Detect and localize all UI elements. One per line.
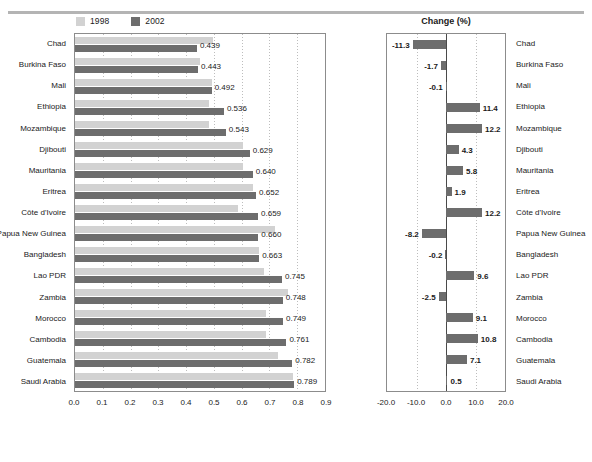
bar-1998 <box>75 205 238 213</box>
bar-2002 <box>75 381 294 389</box>
change-bar <box>446 334 478 344</box>
bar-value-label: 0.443 <box>201 61 221 70</box>
change-row: 12.2 <box>387 118 505 139</box>
bar-1998 <box>75 100 209 108</box>
change-bar <box>446 103 480 113</box>
category-label-left: Eritrea <box>0 181 70 202</box>
category-label-left: Bangladesh <box>0 244 70 265</box>
bar-value-label: 0.543 <box>229 124 249 133</box>
bar-value-label: 0.439 <box>200 40 220 49</box>
bar-2002 <box>75 297 283 305</box>
x-tick-label: 0.0 <box>440 398 451 407</box>
bar-value-label: 0.629 <box>253 145 273 154</box>
change-row: -1.7 <box>387 55 505 76</box>
bar-2002 <box>75 87 212 95</box>
x-tick-label: 0.5 <box>208 398 219 407</box>
change-bar <box>446 271 474 281</box>
change-value-label: 10.8 <box>481 334 497 343</box>
category-label-right: Eritrea <box>512 181 590 202</box>
change-x-axis: -20.0-10.00.010.020.0 <box>386 394 506 418</box>
levels-row: 0.660 <box>75 223 325 244</box>
levels-bar-rows: 0.4390.4430.4920.5360.5430.6290.6400.652… <box>75 34 325 391</box>
levels-panel: 0.4390.4430.4920.5360.5430.6290.6400.652… <box>74 33 326 418</box>
change-value-label: 5.8 <box>466 166 477 175</box>
chart-figure: 1998 2002 Change (%) ChadBurkina FasoMal… <box>0 0 592 462</box>
change-row: 10.8 <box>387 328 505 349</box>
category-label-left: Mauritania <box>0 160 70 181</box>
bar-1998 <box>75 331 266 339</box>
change-panel-title: Change (%) <box>386 16 506 26</box>
levels-x-axis: 0.00.10.20.30.40.50.60.70.80.9 <box>74 394 326 418</box>
bar-value-label: 0.789 <box>297 376 317 385</box>
category-label-right: Burkina Faso <box>512 54 590 75</box>
change-bar <box>446 355 467 365</box>
change-bar <box>422 229 446 239</box>
change-value-label: -0.1 <box>429 82 443 91</box>
category-label-left: Burkina Faso <box>0 54 70 75</box>
category-label-left: Lao PDR <box>0 265 70 286</box>
levels-row: 0.745 <box>75 265 325 286</box>
category-labels-right: ChadBurkina FasoMaliEthiopiaMozambiqueDj… <box>512 33 590 392</box>
change-row: -11.3 <box>387 34 505 55</box>
levels-row: 0.629 <box>75 139 325 160</box>
category-label-right: Bangladesh <box>512 244 590 265</box>
levels-row: 0.439 <box>75 34 325 55</box>
x-tick-label: 0.8 <box>292 398 303 407</box>
bar-2002 <box>75 360 292 368</box>
levels-row: 0.659 <box>75 202 325 223</box>
levels-row: 0.536 <box>75 97 325 118</box>
bar-2002 <box>75 108 224 116</box>
bar-value-label: 0.761 <box>289 334 309 343</box>
category-label-right: Saudi Arabia <box>512 371 590 392</box>
change-value-label: 9.6 <box>477 271 488 280</box>
levels-row: 0.543 <box>75 118 325 139</box>
category-labels-left: ChadBurkina FasoMaliEthiopiaMozambiqueDj… <box>0 33 70 392</box>
change-value-label: -8.2 <box>405 229 419 238</box>
bar-2002 <box>75 213 258 221</box>
category-label-right: Cambodia <box>512 329 590 350</box>
bar-1998 <box>75 289 288 297</box>
category-label-left: Saudi Arabia <box>0 371 70 392</box>
category-label-left: Mali <box>0 75 70 96</box>
levels-row: 0.640 <box>75 160 325 181</box>
bar-1998 <box>75 226 275 234</box>
x-tick-label: 20.0 <box>498 398 514 407</box>
change-value-label: 7.1 <box>470 355 481 364</box>
change-value-label: 0.5 <box>450 376 461 385</box>
bar-2002 <box>75 276 282 284</box>
bar-1998 <box>75 79 212 87</box>
bar-1998 <box>75 184 253 192</box>
bar-value-label: 0.492 <box>215 82 235 91</box>
bar-2002 <box>75 129 226 137</box>
bar-value-label: 0.640 <box>256 166 276 175</box>
change-bar <box>446 376 447 386</box>
bar-1998 <box>75 310 266 318</box>
category-label-left: Mozambique <box>0 118 70 139</box>
change-row: 4.3 <box>387 139 505 160</box>
legend-label-2002: 2002 <box>145 16 164 26</box>
levels-row: 0.663 <box>75 244 325 265</box>
x-tick-label: 0.0 <box>68 398 79 407</box>
legend-swatch-1998 <box>76 17 85 26</box>
top-rule <box>8 11 584 14</box>
levels-plot-area: 0.4390.4430.4920.5360.5430.6290.6400.652… <box>74 33 326 392</box>
levels-row: 0.782 <box>75 349 325 370</box>
bar-1998 <box>75 142 243 150</box>
category-label-left: Cambodia <box>0 329 70 350</box>
category-label-left: Papua New Guinea <box>0 223 70 244</box>
change-value-label: 11.4 <box>483 103 498 112</box>
category-label-left: Djibouti <box>0 139 70 160</box>
legend-label-1998: 1998 <box>90 16 109 26</box>
bar-value-label: 0.749 <box>286 313 306 322</box>
levels-row: 0.652 <box>75 181 325 202</box>
change-value-label: 4.3 <box>462 145 473 154</box>
category-label-left: Morocco <box>0 308 70 329</box>
change-value-label: 12.2 <box>485 124 501 133</box>
legend-swatch-2002 <box>131 17 140 26</box>
legend-item-2002: 2002 <box>131 16 164 26</box>
x-tick-label: 0.1 <box>96 398 107 407</box>
change-bar <box>441 61 446 71</box>
levels-row: 0.789 <box>75 370 325 391</box>
x-tick-label: 0.7 <box>264 398 275 407</box>
category-label-right: Guatemala <box>512 350 590 371</box>
